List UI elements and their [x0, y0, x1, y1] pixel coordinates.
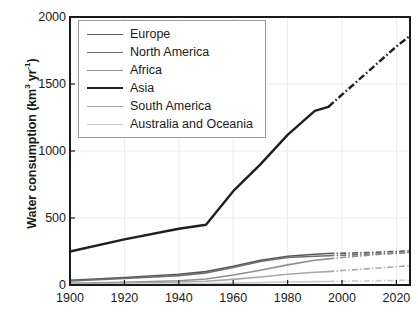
legend-label-asia: Asia [130, 82, 154, 95]
chart-legend: EuropeNorth AmericaAfricaAsiaSouth Ameri… [78, 20, 266, 138]
legend-swatch-africa [87, 70, 123, 71]
legend-item-south-america[interactable]: South America [79, 97, 265, 115]
legend-label-africa: Africa [130, 64, 162, 77]
series-line-north-america [70, 256, 328, 281]
legend-item-australia-and-oceania[interactable]: Australia and Oceania [79, 115, 265, 133]
legend-swatch-australia-and-oceania [87, 124, 123, 125]
legend-swatch-asia [87, 87, 123, 89]
series-projection-europe [328, 251, 410, 254]
legend-swatch-europe [87, 34, 123, 35]
series-projection-australia-and-oceania [328, 280, 410, 281]
series-projection-south-america [328, 266, 410, 272]
legend-label-south-america: South America [130, 100, 211, 113]
legend-label-north-america: North America [130, 46, 209, 59]
legend-label-europe: Europe [130, 28, 170, 41]
legend-swatch-north-america [87, 52, 123, 53]
legend-item-north-america[interactable]: North America [79, 43, 265, 61]
series-projection-asia [328, 36, 410, 107]
legend-label-australia-and-oceania: Australia and Oceania [130, 118, 253, 131]
legend-item-europe[interactable]: Europe [79, 25, 265, 43]
legend-swatch-south-america [87, 106, 123, 107]
legend-item-asia[interactable]: Asia [79, 79, 265, 97]
water-consumption-chart: Water consumption (km3 yr-1) 05001000150… [0, 0, 418, 314]
legend-item-africa[interactable]: Africa [79, 61, 265, 79]
